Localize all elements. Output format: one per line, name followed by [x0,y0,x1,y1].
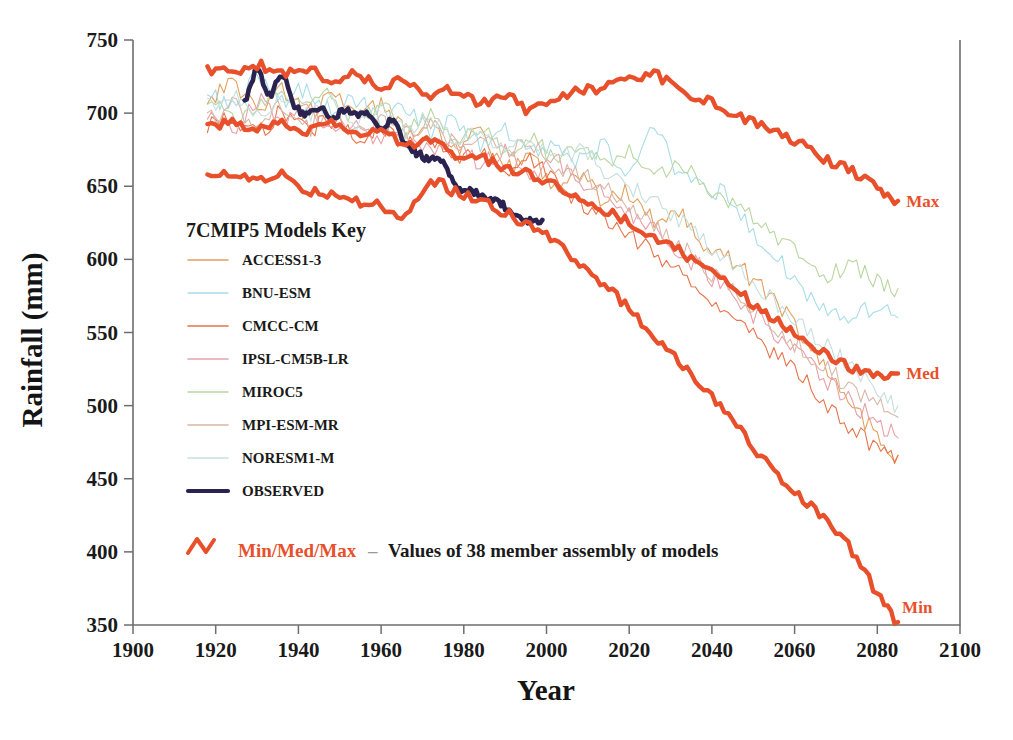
edge-annotation-layer: MaxMedMin [902,192,940,618]
y-tick-label: 400 [87,540,119,564]
legend-label-access1-3: ACCESS1-3 [242,252,321,268]
legend-title: 7CMIP5 Models Key [186,219,366,242]
x-tick-label: 1940 [277,638,319,662]
y-tick-label: 500 [87,394,119,418]
legend-label-cmcc-cm: CMCC-CM [242,318,319,334]
y-tick-label: 550 [87,321,119,345]
max-edge-label: Max [906,192,940,211]
chart-legend: 7CMIP5 Models KeyACCESS1-3BNU-ESMCMCC-CM… [186,219,718,561]
legend-label-observed: OBSERVED [242,483,324,499]
x-tick-label: 2040 [691,638,733,662]
y-tick-label: 750 [87,28,119,52]
legend-label-ipsl-cm5b-lr: IPSL-CM5B-LR [242,351,349,367]
legend-label-miroc5: MIROC5 [242,384,303,400]
minmedmax-zigzag-icon [188,539,214,553]
y-axis-title: Rainfall (mm) [16,253,49,428]
y-tick-label: 700 [87,101,119,125]
x-tick-label: 1900 [112,638,154,662]
y-tick-label: 650 [87,174,119,198]
legend-label-bnu-esm: BNU-ESM [242,285,311,301]
med-edge-label: Med [906,364,940,383]
min-edge-label: Min [902,598,933,617]
x-tick-label: 1920 [195,638,237,662]
x-axis-title: Year [517,674,575,706]
y-tick-label: 350 [87,613,119,637]
x-tick-label: 2020 [608,638,650,662]
x-tick-label: 2100 [939,638,981,662]
y-tick-label: 600 [87,247,119,271]
rainfall-projection-chart: 3504004505005506006507007501900192019401… [0,0,1013,740]
x-tick-label: 1980 [443,638,485,662]
x-tick-label: 2080 [856,638,898,662]
series-line-med [207,119,898,379]
legend-note-text: Values of 38 member assembly of models [388,540,718,561]
legend-note-accent: Min/Med/Max [238,540,357,561]
legend-note-dash: – [367,540,378,561]
x-tick-label: 1960 [360,638,402,662]
x-tick-label: 2060 [774,638,816,662]
y-tick-label: 450 [87,467,119,491]
legend-label-noresm1-m: NORESM1-M [242,450,335,466]
legend-label-mpi-esm-mr: MPI-ESM-MR [242,417,339,433]
x-tick-label: 2000 [526,638,568,662]
